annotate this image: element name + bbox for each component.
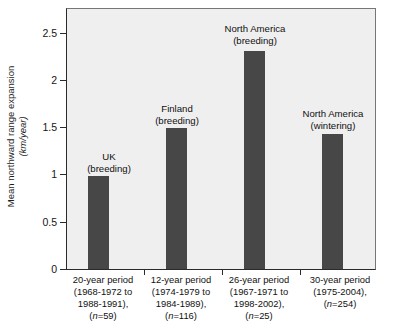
x-axis-label-4-line1: 30-year period: [310, 274, 370, 285]
x-axis-label-4-line2: (1975-2004),: [313, 286, 367, 297]
x-axis-label-1: 20-year period (1968-1972 to 1988-1991),…: [61, 274, 145, 322]
y-axis-title: Mean northward range expansion (km/year): [0, 0, 34, 272]
plot-inner: 2.5 2 1.5 1 0.5 0: [67, 9, 375, 269]
bar-annotation-na-wintering: North America (wintering): [276, 108, 390, 131]
y-tick-label-0.5: 0.5: [42, 216, 57, 228]
x-axis-label-2-line3: 1984-1989),: [156, 298, 207, 309]
plot-area: 2.5 2 1.5 1 0.5 0: [66, 8, 376, 270]
x-axis-label-3-line3: 1998-2002),: [234, 298, 285, 309]
y-axis-title-text: Mean northward range expansion: [6, 65, 17, 207]
x-axis-label-3: 26-year period (1967-1971 to 1998-2002),…: [217, 274, 301, 322]
bar-annotation-uk-line1: UK: [102, 151, 115, 162]
y-tick-label-1: 1: [51, 168, 57, 180]
bar-annotation-na-breeding-line2: (breeding): [233, 35, 277, 46]
x-axis-label-2-line2: (1974-1979 to: [152, 286, 210, 297]
x-axis-label-1-line3: 1988-1991),: [78, 298, 129, 309]
bar-annotation-finland-line1: Finland: [161, 103, 192, 114]
bar-annotation-uk: UK (breeding): [61, 151, 157, 174]
y-axis-unit-text: (km/year): [17, 116, 28, 156]
bar-finland-breeding: [166, 128, 187, 269]
x-axis-label-3-line1: 26-year period: [229, 274, 289, 285]
x-axis-label-4-n: (n=254): [324, 298, 357, 309]
bar-north-america-breeding: [244, 51, 265, 269]
y-tick-2: 2: [60, 80, 67, 81]
bar-annotation-finland-line2: (breeding): [155, 115, 199, 126]
x-axis-label-3-line2: (1967-1971 to: [230, 286, 288, 297]
y-tick-label-1.5: 1.5: [42, 121, 57, 133]
bar-annotation-finland: Finland (breeding): [129, 103, 225, 126]
x-axis-label-4: 30-year period (1975-2004), (n=254): [295, 274, 385, 310]
x-axis-label-2-n: (n=116): [165, 310, 197, 321]
y-tick-0: 0: [60, 269, 67, 270]
y-tick-label-2: 2: [51, 74, 57, 86]
bar-annotation-na-wintering-line2: (wintering): [311, 120, 356, 131]
x-axis-label-1-n: (n=59): [89, 310, 116, 321]
bar-north-america-wintering: [322, 134, 343, 269]
y-tick-1: 1: [60, 174, 67, 175]
y-tick-label-0: 0: [51, 263, 57, 275]
y-tick-0.5: 0.5: [60, 222, 67, 223]
y-tick-2.5: 2.5: [60, 33, 67, 34]
bar-annotation-na-wintering-line1: North America: [303, 108, 364, 119]
bar-chart-figure: Mean northward range expansion (km/year)…: [0, 0, 396, 328]
bar-uk-breeding: [88, 176, 109, 269]
x-axis-label-3-n: (n=25): [245, 310, 272, 321]
x-axis-label-2-line1: 12-year period: [151, 274, 211, 285]
x-axis-label-1-line1: 20-year period: [73, 274, 133, 285]
x-axis-label-1-line2: (1968-1972 to: [74, 286, 132, 297]
x-axis-label-2: 12-year period (1974-1979 to 1984-1989),…: [139, 274, 223, 322]
bar-annotation-na-breeding-line1: North America: [225, 23, 286, 34]
y-tick-label-2.5: 2.5: [42, 27, 57, 39]
bar-annotation-uk-line2: (breeding): [87, 163, 131, 174]
bar-annotation-na-breeding: North America (breeding): [198, 23, 312, 46]
y-tick-1.5: 1.5: [60, 127, 67, 128]
